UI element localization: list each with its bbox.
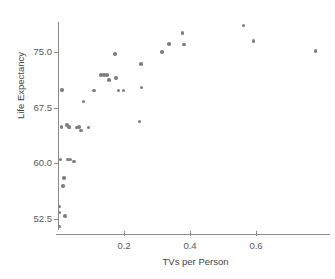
x-axis-tick — [256, 231, 257, 236]
data-point — [122, 89, 126, 93]
y-axis-tick — [54, 108, 59, 109]
data-point — [61, 184, 65, 188]
x-axis-tick — [190, 231, 191, 236]
data-point — [140, 86, 144, 90]
x-axis-title: TVs per Person — [0, 256, 335, 267]
data-point — [99, 73, 103, 77]
data-point — [314, 49, 318, 53]
data-point — [107, 78, 111, 82]
data-point — [242, 24, 246, 28]
data-point — [60, 88, 64, 92]
x-axis-line — [56, 234, 330, 235]
data-point — [139, 62, 143, 66]
y-axis-tick-label: 52.5 — [34, 213, 53, 224]
y-axis-tick-label: 75.0 — [34, 46, 53, 57]
y-axis-tick — [54, 52, 59, 53]
x-axis-tick-label: 0.2 — [117, 240, 130, 251]
y-axis-tick — [54, 163, 59, 164]
data-point — [167, 42, 171, 46]
y-axis-line — [58, 22, 59, 230]
y-axis-tick-label: 60.0 — [34, 157, 53, 168]
data-point — [62, 176, 66, 180]
data-point — [182, 43, 186, 47]
data-point — [72, 160, 76, 164]
y-axis-tick — [54, 219, 59, 220]
data-point — [138, 120, 142, 124]
data-point — [117, 89, 121, 93]
data-point — [82, 100, 86, 104]
x-axis-tick-label: 0.4 — [183, 240, 196, 251]
x-axis-tick-label: 0.6 — [249, 240, 262, 251]
data-point — [59, 158, 63, 162]
data-point — [60, 125, 64, 129]
y-axis-tick-label: 67.5 — [34, 102, 53, 113]
scatter-plot-figure: 52.560.067.575.00.20.40.6 TVs per Person… — [0, 0, 335, 279]
data-point — [252, 39, 256, 43]
x-axis-tick — [124, 231, 125, 236]
data-point — [113, 52, 117, 56]
y-axis-title: Life Expectancy — [15, 11, 26, 161]
data-point — [87, 126, 91, 130]
plot-area: 52.560.067.575.00.20.40.6 — [0, 0, 335, 279]
data-point — [79, 129, 83, 133]
data-points-layer — [0, 0, 335, 279]
data-point — [181, 31, 185, 35]
data-point — [63, 214, 67, 218]
data-point — [68, 126, 72, 130]
data-point — [160, 50, 164, 54]
data-point — [92, 89, 96, 93]
data-point — [114, 76, 118, 80]
data-point — [77, 125, 81, 129]
data-point — [105, 73, 109, 77]
